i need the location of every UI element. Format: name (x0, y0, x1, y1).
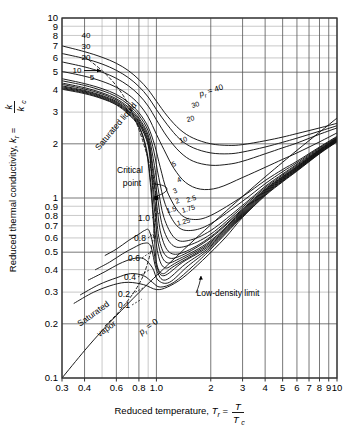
curve-label-low: 0.4 (124, 272, 136, 282)
x-tick-label: 6 (294, 382, 299, 393)
x-tick-label: 7 (306, 382, 311, 393)
y-tick-label: 1 (53, 192, 58, 203)
y-tick-label: 0.3 (45, 286, 58, 297)
x-tick-label: 9 (326, 382, 331, 393)
y-tick-label: 0.6 (45, 232, 58, 243)
annotation-critical-point-line1: Critical (117, 165, 143, 175)
y-tick-label: 4 (53, 84, 58, 95)
x-tick-label: 0.4 (78, 382, 91, 393)
curve-label-left: 5 (90, 73, 95, 82)
curve-label-left: 30 (82, 42, 91, 51)
curve-label-low: 1.0 (138, 213, 150, 223)
x-tick-label: 8 (317, 382, 322, 393)
annotation-critical-point-line2: point (123, 178, 142, 188)
y-tick-label: 0.7 (45, 220, 58, 231)
curve-label-left: 20 (82, 53, 91, 62)
y-tick-label: 10 (47, 12, 58, 23)
x-axis-title-denominator-sub: c (241, 419, 245, 426)
x-axis-title-eq: = (220, 405, 229, 416)
reduced-thermal-conductivity-chart: 0.10.20.30.40.50.60.70.80.9123456789100.… (0, 0, 360, 440)
y-tick-label: 7 (53, 40, 58, 51)
x-tick-label: 4 (262, 382, 267, 393)
x-axis-title-main: Reduced temperature, (114, 405, 211, 416)
x-tick-label: 5 (280, 382, 285, 393)
y-tick-label: 2 (53, 138, 58, 149)
y-tick-label: 0.5 (45, 246, 58, 257)
x-tick-label: 0.8 (132, 382, 145, 393)
annotation-low-density-limit: Low-density limit (197, 288, 260, 298)
y-tick-label: 0.2 (45, 318, 58, 329)
y-tick-label: 3 (53, 106, 58, 117)
curve-label-left: 40 (82, 31, 91, 40)
x-tick-label: 0.6 (110, 382, 123, 393)
x-tick-label: 3 (240, 382, 245, 393)
y-tick-label: 6 (53, 52, 58, 63)
curve-label-low: 0.1 (118, 300, 130, 310)
x-tick-label: 10 (332, 382, 343, 393)
x-tick-label: 2 (208, 382, 213, 393)
x-tick-label: 0.3 (55, 382, 68, 393)
y-axis-title-eq: = (7, 127, 18, 136)
curve-label-low: 0.2 (118, 289, 130, 299)
curve-label-low: 0.8 (134, 233, 146, 243)
y-axis-title-denominator-sub: c (20, 100, 27, 104)
x-tick-label: 1.0 (150, 382, 163, 393)
y-tick-label: 0.4 (45, 264, 58, 275)
curve-label-low: 0.6 (128, 253, 140, 263)
y-axis-title-main: Reduced thermal conductivity, (7, 143, 18, 272)
y-tick-label: 5 (53, 66, 58, 77)
chart-root: 0.10.20.30.40.50.60.70.80.9123456789100.… (0, 0, 360, 440)
curve-label-left: 10 (73, 66, 82, 75)
